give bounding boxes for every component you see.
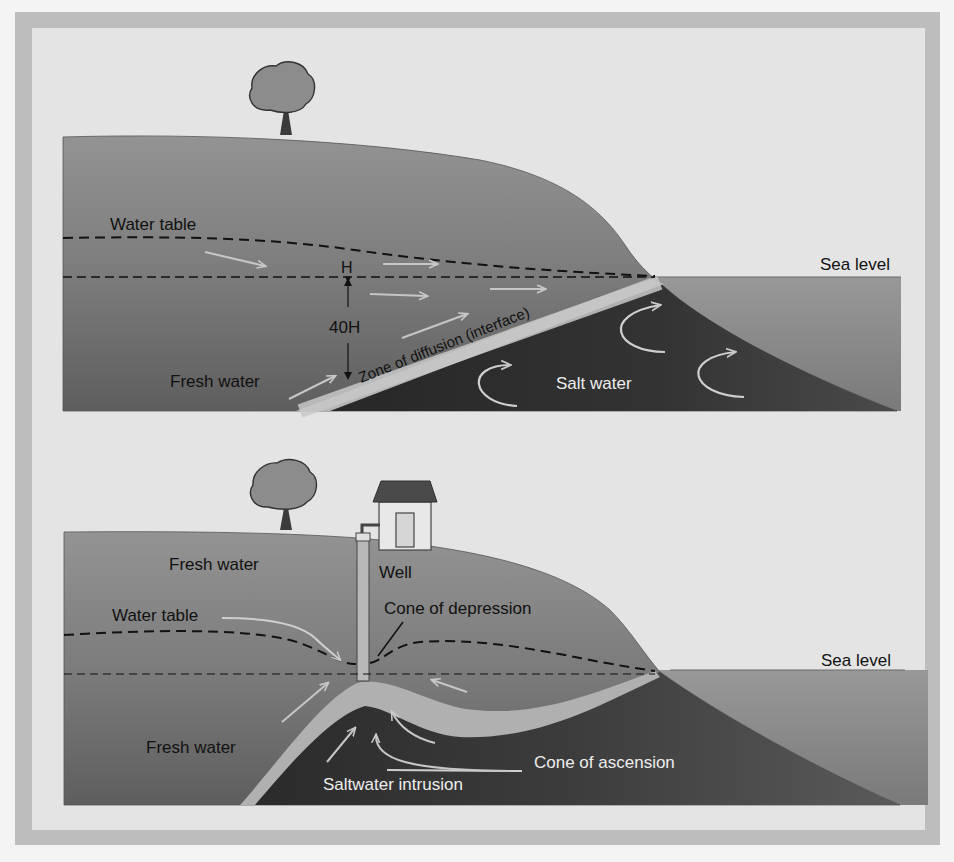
saltwater-intrusion-diagram: Water table Sea level H 40H Fresh water … bbox=[0, 0, 954, 862]
label-fresh-water-lower: Fresh water bbox=[146, 738, 236, 757]
label-cone-of-depression: Cone of depression bbox=[384, 599, 531, 618]
label-cone-of-ascension: Cone of ascension bbox=[534, 753, 675, 772]
label-salt-water: Salt water bbox=[556, 374, 632, 393]
label-well: Well bbox=[379, 563, 412, 582]
label-sea-level: Sea level bbox=[821, 651, 891, 670]
label-h: H bbox=[341, 259, 353, 276]
label-water-table: Water table bbox=[112, 606, 198, 625]
label-fresh-water: Fresh water bbox=[170, 372, 260, 391]
label-sea-level: Sea level bbox=[820, 255, 890, 274]
label-saltwater-intrusion: Saltwater intrusion bbox=[323, 775, 463, 794]
label-40h: 40H bbox=[329, 318, 360, 337]
label-fresh-water-upper: Fresh water bbox=[169, 555, 259, 574]
house-icon bbox=[373, 481, 437, 550]
label-water-table: Water table bbox=[110, 215, 196, 234]
